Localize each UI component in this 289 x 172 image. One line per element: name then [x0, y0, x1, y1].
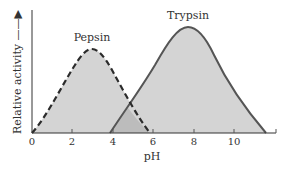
x-axis-label: pH: [144, 150, 161, 163]
trypsin-label: Trypsin: [167, 9, 209, 22]
x-tick-label: 2: [69, 136, 75, 147]
pepsin-label: Pepsin: [74, 31, 111, 44]
y-axis-label: Relative activity ——▶: [11, 10, 24, 134]
x-tick-label: 0: [29, 136, 35, 147]
x-tick-label: 4: [110, 136, 116, 147]
x-tick-label: 8: [191, 136, 197, 147]
x-tick-label: 10: [228, 136, 241, 147]
chart-canvas: [0, 0, 289, 172]
x-tick-label: 6: [150, 136, 156, 147]
